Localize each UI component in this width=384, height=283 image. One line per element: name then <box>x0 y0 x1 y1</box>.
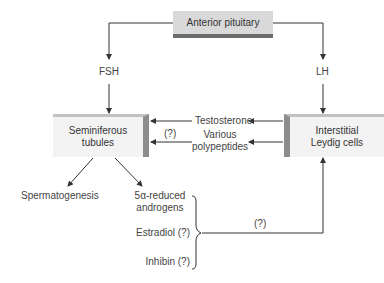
leydig-label-line2: Leydig cells <box>311 137 363 149</box>
androgens-line2: androgens <box>128 202 192 214</box>
lh-label: LH <box>316 66 329 78</box>
anterior-pituitary-label: Anterior pituitary <box>187 17 260 29</box>
feedback-uncertain-label: (?) <box>254 218 266 230</box>
polypeptides-line2: polypeptides <box>188 141 252 153</box>
leydig-cells-box: Interstitial Leydig cells <box>284 114 384 157</box>
seminiferous-label-line2: tubules <box>69 137 127 149</box>
spermatogenesis-label: Spermatogenesis <box>21 190 99 202</box>
androgens-line1: 5α-reduced <box>128 190 192 202</box>
seminiferous-tubules-box: Seminiferous tubules <box>53 114 149 157</box>
polypeptides-line1: Various <box>188 129 252 141</box>
fsh-label: FSH <box>99 66 119 78</box>
androgens-label: 5α-reduced androgens <box>128 190 192 214</box>
polypeptides-label: Various polypeptides <box>188 129 252 153</box>
testosterone-label: Testosterone <box>195 115 252 127</box>
anterior-pituitary-box: Anterior pituitary <box>173 11 273 38</box>
leydig-label-line1: Interstitial <box>311 125 363 137</box>
inhibin-label: Inhibin (?) <box>128 256 190 268</box>
seminiferous-label-line1: Seminiferous <box>69 125 127 137</box>
polypeptides-uncertain-label: (?) <box>164 128 176 140</box>
estradiol-label: Estradiol (?) <box>128 227 190 239</box>
